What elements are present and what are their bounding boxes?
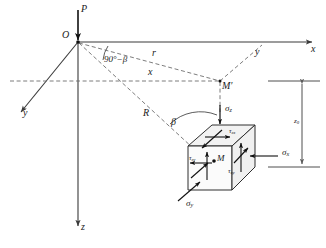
line-R [79,43,206,160]
y-axis-line [21,42,78,112]
label-tau-zy: τzy [189,155,195,163]
label-axis-z: z [81,222,85,232]
sigma-z-subscript: z [229,107,231,113]
sigma-x-subscript: x [286,151,289,157]
label-load-P: P [81,4,87,14]
label-radius-r: r [152,48,156,58]
label-sigma-y: σy [186,199,193,208]
angle-arc-beta [170,112,217,124]
label-sigma-x: σx [282,148,289,157]
label-radius-R: R [143,108,149,118]
cube-front-face [188,146,232,190]
label-angle-beta: β [171,117,176,127]
tau-xy-subscript: xy [231,170,235,175]
stress-diagram-figure: P O x y y z 90°−β β r x R M′ M z0 σz σx … [0,0,326,248]
label-depth-dimension: z0 [294,118,299,126]
label-angle-complement: 90°−β [104,55,127,64]
label-depth-subscript: 0 [297,120,299,125]
sigma-y-subscript: y [190,202,193,208]
tau-zy-subscript: zy [192,157,196,162]
label-axis-y-right: y [255,47,259,57]
label-axis-y-left: y [23,108,27,118]
label-point-M: M [217,154,225,163]
label-tau-xy: τxy [228,168,235,176]
tau-zx-subscript: zx [232,130,236,135]
label-axis-x: x [311,44,315,54]
label-tau-zx: τzx [229,128,235,136]
label-point-M-prime: M′ [222,81,233,91]
diagram-canvas [0,0,326,248]
point-M-dot [212,159,216,163]
label-origin-O: O [62,30,69,40]
label-distance-x: x [148,67,152,77]
origin-dot [76,40,80,44]
axis-system [21,42,312,226]
label-sigma-z: σz [225,104,232,113]
